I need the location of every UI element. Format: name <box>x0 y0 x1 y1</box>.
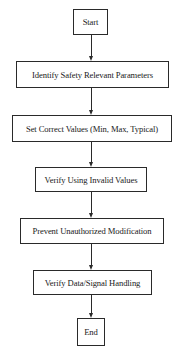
set-correct-values-label: Set Correct Values (Min, Max, Typical) <box>26 124 158 134</box>
verify-invalid-values-label: Verify Using Invalid Values <box>45 175 138 185</box>
end-label: End <box>84 327 98 337</box>
verify-data-signal-label: Verify Data/Signal Handling <box>45 278 141 288</box>
connector-verify-invalid-to-prevent <box>91 192 92 213</box>
set-correct-values-node: Set Correct Values (Min, Max, Typical) <box>12 115 172 142</box>
arrowhead-icon <box>89 110 93 115</box>
identify-parameters-label: Identify Safety Relevant Parameters <box>32 70 153 80</box>
prevent-modification-node: Prevent Unauthorized Modification <box>20 218 164 244</box>
end-node: End <box>77 318 105 346</box>
arrowhead-icon <box>89 313 93 318</box>
connector-verify-data-to-end <box>91 295 92 313</box>
arrowhead-icon <box>89 213 93 218</box>
connector-prevent-to-verify-data <box>91 244 92 265</box>
connector-set-values-to-verify-invalid <box>91 142 92 162</box>
connector-start-to-identify <box>91 35 92 56</box>
verify-invalid-values-node: Verify Using Invalid Values <box>35 167 147 192</box>
start-node: Start <box>73 9 108 35</box>
connector-identify-to-set-values <box>91 88 92 110</box>
identify-parameters-node: Identify Safety Relevant Parameters <box>16 61 169 88</box>
arrowhead-icon <box>89 265 93 270</box>
prevent-modification-label: Prevent Unauthorized Modification <box>33 226 152 236</box>
arrowhead-icon <box>89 56 93 61</box>
verify-data-signal-node: Verify Data/Signal Handling <box>33 270 152 295</box>
start-label: Start <box>83 17 99 27</box>
arrowhead-icon <box>89 162 93 167</box>
